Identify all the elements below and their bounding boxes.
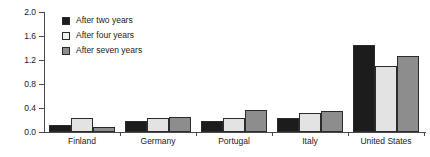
legend-swatch-icon [62,47,70,55]
x-axis-tick [424,132,425,136]
legend-swatch-icon [62,32,70,40]
x-axis-tick [272,132,273,136]
x-axis-tick [348,132,349,136]
bar [245,110,267,132]
legend-item-label: After four years [76,31,134,40]
y-axis-tick [39,132,44,133]
chart-legend: After two yearsAfter four yearsAfter sev… [62,14,142,59]
y-axis-tick-label: 0.0 [0,128,36,137]
x-axis-category-label: Italy [272,137,348,146]
y-axis-tick-label: 1.2 [0,56,36,65]
x-axis-category-label: United States [348,137,424,146]
x-axis-line [44,132,426,133]
x-axis-category-label: Finland [44,137,120,146]
bar [397,56,419,132]
bar [125,121,147,132]
bar [375,66,397,132]
bar [353,45,375,132]
bar-group [201,12,267,132]
legend-item-label: After seven years [76,46,142,55]
bar [223,118,245,132]
bar [93,127,115,132]
bar [169,117,191,132]
legend-item: After two years [62,14,142,27]
y-axis-tick-label: 2.0 [0,8,36,17]
legend-item: After four years [62,29,142,42]
x-axis-tick [120,132,121,136]
bar [321,111,343,132]
x-axis-category-label: Portugal [196,137,272,146]
legend-item: After seven years [62,44,142,57]
bar-chart: 0.00.40.81.21.62.0 FinlandGermanyPortuga… [0,0,430,157]
bar-group [277,12,343,132]
bar [277,118,299,132]
legend-swatch-icon [62,17,70,25]
bar [71,118,93,132]
bar [299,113,321,132]
bar [201,121,223,132]
bar [147,118,169,132]
bar [49,125,71,132]
x-axis-tick [196,132,197,136]
y-axis-tick-label: 0.8 [0,80,36,89]
x-axis-category-label: Germany [120,137,196,146]
bar-group [353,12,419,132]
legend-item-label: After two years [76,16,133,25]
y-axis-tick-label: 0.4 [0,104,36,113]
y-axis-tick-label: 1.6 [0,32,36,41]
